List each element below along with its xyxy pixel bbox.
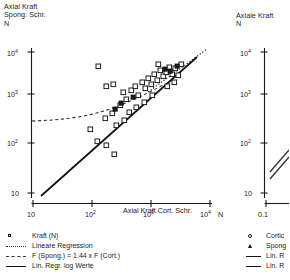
right-legend-label-spongiosa: Spong [266, 241, 286, 251]
right-legend-label-lin-regr-2: Lin. R [266, 261, 284, 271]
right-legend-item-spongiosa: Spong [246, 241, 286, 251]
right-axis-lines [261, 48, 290, 207]
right-legend-label-lin-regr-1: Lin. R [266, 251, 284, 261]
circle-marker-icon [246, 231, 266, 241]
right-legend-label-cortical: Cortic [266, 231, 284, 241]
triangle-marker-icon [246, 241, 266, 251]
figure-canvas: Axial Kraft Spong: Schr. N 104 103 102 1… [0, 0, 289, 280]
solid-line-icon [246, 261, 266, 271]
solid-line-icon [246, 251, 266, 261]
right-legend: Cortic Spong Lin. R Lin. R [246, 231, 286, 271]
right-legend-item-lin-regr-1: Lin. R [246, 251, 286, 261]
right-legend-item-cortical: Cortic [246, 231, 286, 241]
right-trend-lines [270, 150, 289, 179]
right-legend-item-lin-regr-2: Lin. R [246, 261, 286, 271]
